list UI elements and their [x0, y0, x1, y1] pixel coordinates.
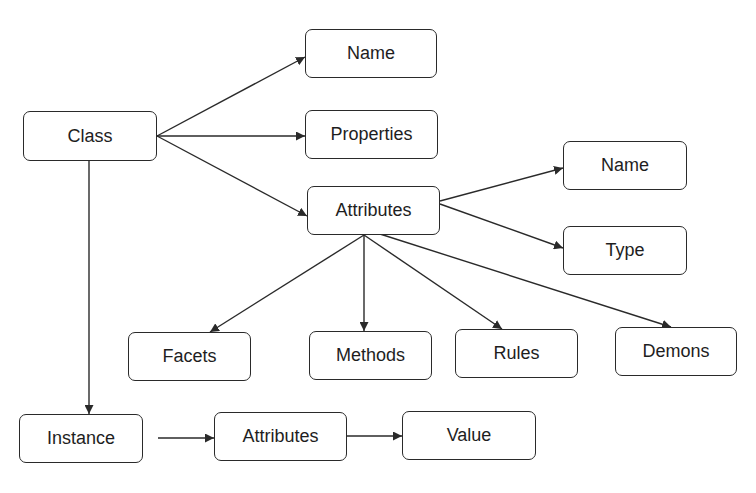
node-label: Attributes [242, 426, 318, 447]
node-label: Instance [47, 428, 115, 449]
node-class: Class [23, 111, 157, 161]
arrow-class-to-class-attributes [157, 136, 307, 216]
node-label: Demons [642, 341, 709, 362]
arrow-class-attributes-to-attr-name [440, 168, 563, 201]
node-methods: Methods [309, 331, 432, 380]
node-class-name: Name [305, 29, 437, 78]
arrow-class-to-class-name [157, 57, 305, 136]
node-facets: Facets [128, 332, 251, 381]
node-label: Attributes [335, 200, 411, 221]
node-class-properties: Properties [305, 110, 438, 159]
node-instance: Instance [19, 414, 143, 463]
node-attribute-type: Type [563, 226, 687, 275]
node-attribute-name: Name [563, 141, 687, 190]
node-demons: Demons [615, 327, 737, 376]
diagram-canvas: Class Name Properties Attributes Name Ty… [0, 0, 756, 493]
node-label: Class [67, 126, 112, 147]
node-value: Value [402, 411, 536, 460]
arrow-class-attributes-to-rules [364, 235, 502, 329]
node-class-attributes: Attributes [307, 186, 440, 235]
node-label: Methods [336, 345, 405, 366]
node-label: Name [601, 155, 649, 176]
node-label: Type [605, 240, 644, 261]
node-instance-attributes: Attributes [214, 412, 347, 461]
arrow-class-attributes-to-attr-type [440, 204, 563, 248]
node-label: Rules [493, 343, 539, 364]
arrow-class-attributes-to-facets [210, 235, 364, 332]
node-label: Name [347, 43, 395, 64]
node-label: Value [447, 425, 492, 446]
node-label: Properties [330, 124, 412, 145]
node-rules: Rules [455, 329, 578, 378]
node-label: Facets [162, 346, 216, 367]
